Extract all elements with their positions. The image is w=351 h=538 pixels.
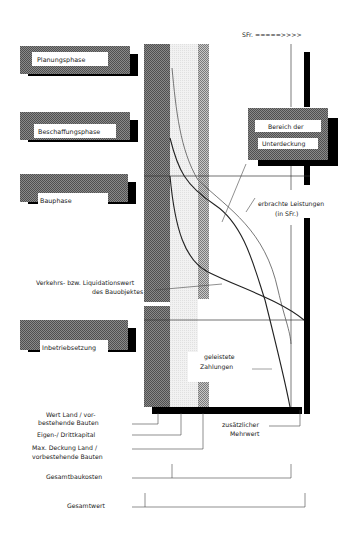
services-label-1: erbrachte Leistungen — [258, 200, 324, 208]
phase-box-inbetrieb: Inbetriebsetzung — [20, 320, 136, 354]
land-value-column-lower — [144, 306, 170, 407]
right-axis-bar-top — [304, 52, 310, 107]
legend-capital: Eigen-/ Drittkapital — [37, 431, 96, 439]
legend-land-1: Wert Land / vor- — [46, 411, 95, 418]
payments-label-2: Zahlungen — [200, 363, 233, 371]
services-label-2: (in SFr.) — [275, 210, 298, 217]
phase-label: Planungsphase — [37, 56, 85, 64]
shortfall-box: Bereich der Unterdeckung — [248, 108, 338, 166]
shortfall-line2: Unterdeckung — [262, 140, 305, 148]
legend-maxcov-2: vorbestehende Bauten — [32, 453, 103, 460]
phase-box-planung: Planungsphase — [20, 46, 138, 76]
legend-land-2: bestehende Bauten — [38, 419, 99, 426]
land-value-column — [144, 44, 170, 302]
financing-diagram: Planungsphase Beschaffungsphase Bauphase… — [0, 0, 351, 538]
max-coverage-column-lower — [198, 382, 209, 407]
phase-label: Inbetriebsetzung — [42, 344, 96, 352]
market-value-label-1: Verkehrs- bzw. Liquidationswert — [36, 279, 135, 287]
phase-label: Bauphase — [40, 197, 72, 205]
legend-total-cost: Gesamtbaukosten — [46, 473, 102, 480]
phase-label: Beschaffungsphase — [38, 128, 100, 136]
phase-box-bau: Bauphase — [20, 174, 136, 207]
added-value-label-2: Mehrwert — [230, 430, 260, 437]
added-value-label-1: zusätzlicher — [222, 421, 259, 428]
market-value-label-2: des Bauobjektes — [92, 288, 143, 296]
max-coverage-column — [198, 44, 209, 299]
right-axis-bar — [304, 218, 310, 414]
shortfall-line1: Bereich der — [268, 123, 304, 130]
bottom-axis-bar — [152, 407, 302, 414]
legend-total-value: Gesamtwert — [67, 502, 105, 509]
payments-label-1: geleistete — [204, 353, 235, 361]
phase-box-beschaffung: Beschaffungsphase — [20, 112, 138, 142]
legend-maxcov-1: Max. Deckung Land / — [32, 444, 98, 452]
currency-axis-label: SFr. =====>>>> — [242, 31, 302, 38]
